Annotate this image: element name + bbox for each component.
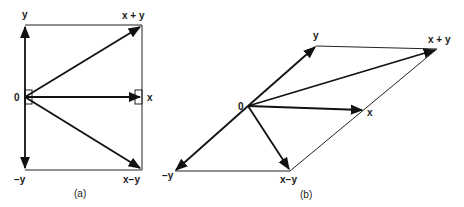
- vector-x: [248, 106, 362, 110]
- figure-b: y 0 x x + y −y x−y (b): [162, 30, 451, 200]
- label-x-minus-y: x−y: [280, 174, 297, 185]
- caption-b: (b): [300, 189, 312, 200]
- label-neg-y: −y: [162, 170, 174, 181]
- label-x-plus-y: x + y: [122, 10, 145, 21]
- label-y: y: [22, 9, 28, 20]
- vector-x-minus-y: [25, 97, 140, 168]
- vector-neg-y: [176, 106, 248, 170]
- label-x-plus-y: x + y: [428, 34, 451, 45]
- label-x: x: [367, 107, 373, 118]
- vector-y: [248, 47, 315, 106]
- figure-a: y 0 x x + y −y x−y (a): [14, 9, 153, 199]
- label-origin: 0: [14, 92, 20, 103]
- caption-a: (a): [74, 188, 86, 199]
- vector-x-minus-y: [248, 106, 289, 169]
- vector-x-plus-y: [248, 50, 435, 106]
- top-edge: [316, 46, 437, 49]
- label-y: y: [313, 30, 319, 41]
- vector-x-plus-y: [25, 27, 140, 97]
- label-x: x: [147, 92, 153, 103]
- vector-diagram: y 0 x x + y −y x−y (a) y 0 x x + y −y x−…: [0, 0, 464, 207]
- label-x-minus-y: x−y: [123, 174, 140, 185]
- label-neg-y: −y: [14, 174, 26, 185]
- right-edge: [290, 49, 437, 171]
- label-origin: 0: [238, 101, 244, 112]
